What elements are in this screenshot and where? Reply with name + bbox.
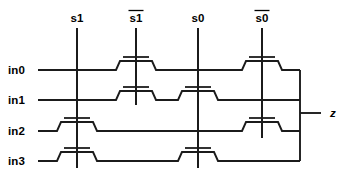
multiplexer-schematic: in0in1in2in3s1s1s0s0z: [0, 0, 349, 184]
input-label-in0: in0: [8, 64, 25, 76]
select-label-s0: s0: [192, 12, 205, 24]
label-group: in0in1in2in3s1s1s0s0z: [8, 11, 336, 168]
input-label-in3: in3: [8, 155, 25, 167]
input-label-in1: in1: [8, 94, 25, 106]
output-label-z: z: [329, 107, 336, 119]
select-label-s1b: s1: [130, 12, 143, 24]
input-label-in2: in2: [8, 125, 25, 137]
select-label-s0b: s0: [256, 12, 269, 24]
diagram-canvas: in0in1in2in3s1s1s0s0z: [0, 0, 349, 184]
select-label-s1: s1: [71, 12, 84, 24]
select-line-group: [77, 28, 262, 168]
output-wire-group: [300, 70, 321, 161]
